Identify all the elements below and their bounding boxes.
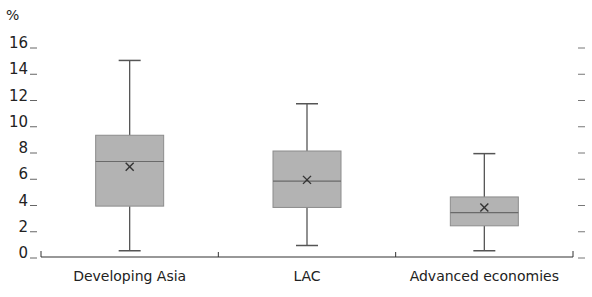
y-tick-label: 10 <box>9 113 28 131</box>
y-tick-label: 12 <box>9 87 28 105</box>
box-developing-asia <box>96 60 164 250</box>
boxes <box>96 60 519 250</box>
x-category-label: Advanced economies <box>410 268 559 284</box>
y-tick-label: 8 <box>18 139 28 157</box>
x-axis-baseline <box>41 251 573 257</box>
x-axis-labels: Developing AsiaLACAdvanced economies <box>73 268 559 284</box>
y-tick-label: 4 <box>18 192 28 210</box>
x-category-label: LAC <box>293 268 320 284</box>
y-tick-label: 6 <box>18 165 28 183</box>
right-axis-ticks <box>578 48 585 258</box>
y-axis: 0246810121416 <box>9 34 37 262</box>
y-tick-label: 14 <box>9 60 28 78</box>
y-tick-label: 0 <box>18 244 28 262</box>
y-tick-label: 2 <box>18 218 28 236</box>
box-plot-chart: % 0246810121416 Developing AsiaLACAdvanc… <box>0 0 592 297</box>
y-tick-label: 16 <box>9 34 28 52</box>
interquartile-box <box>450 197 518 226</box>
interquartile-box <box>96 135 164 206</box>
box-advanced-economies <box>450 154 518 251</box>
x-category-label: Developing Asia <box>73 268 186 284</box>
box-lac <box>273 104 341 246</box>
y-axis-unit-label: % <box>6 7 19 23</box>
